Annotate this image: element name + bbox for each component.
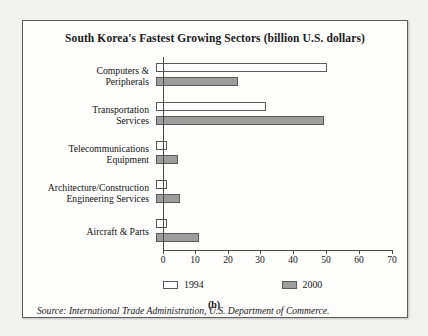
x-tick-label-70: 70 — [387, 255, 397, 265]
x-tick-mark-60 — [359, 250, 360, 254]
category-label-transportation: Transportation Services — [31, 104, 156, 126]
x-tick-label-50: 50 — [321, 255, 331, 265]
bars-holder-transportation — [156, 98, 394, 132]
category-label-telecommunications: Telecommunications Equipment — [31, 143, 156, 165]
plot-area: Computers & Peripherals Transportation S… — [31, 57, 401, 257]
x-tick-mark-40 — [293, 250, 294, 254]
bar-2000-computers — [156, 77, 238, 86]
x-tick-mark-70 — [392, 250, 393, 254]
x-tick-label-30: 30 — [255, 255, 265, 265]
legend-label-2000: 2000 — [303, 279, 323, 290]
category-label-line-1: Computers & — [31, 65, 149, 76]
y-axis-line — [163, 57, 164, 250]
x-tick-label-60: 60 — [354, 255, 364, 265]
bar-2000-telecommunications — [156, 155, 178, 164]
chart-legend: 1994 2000 — [163, 279, 363, 290]
bar-2000-architecture — [156, 194, 180, 203]
figure-caption: (b) — [0, 299, 428, 310]
category-label-aircraft: Aircraft & Parts — [31, 226, 156, 237]
x-tick-mark-20 — [228, 250, 229, 254]
x-tick-mark-30 — [260, 250, 261, 254]
legend-entry-1994: 1994 — [163, 279, 204, 290]
bars-holder-telecommunications — [156, 137, 394, 171]
category-label-computers: Computers & Peripherals — [31, 65, 156, 87]
legend-label-1994: 1994 — [184, 279, 204, 290]
bars-holder-architecture — [156, 176, 394, 210]
x-tick-label-0: 0 — [161, 255, 166, 265]
legend-swatch-1994 — [163, 281, 178, 289]
category-label-line-1: Architecture/Construction — [31, 182, 149, 193]
category-row-transportation: Transportation Services — [31, 98, 401, 132]
category-label-line-1: Telecommunications — [31, 143, 149, 154]
bars-holder-aircraft — [156, 215, 394, 249]
bar-1994-computers — [156, 63, 327, 72]
category-row-computers: Computers & Peripherals — [31, 59, 401, 93]
category-label-architecture: Architecture/Construction Engineering Se… — [31, 182, 156, 204]
category-label-line-2: Equipment — [31, 154, 149, 165]
bar-1994-transportation — [156, 102, 266, 111]
bars-holder-computers — [156, 59, 394, 93]
category-row-architecture: Architecture/Construction Engineering Se… — [31, 176, 401, 210]
x-tick-label-20: 20 — [223, 255, 233, 265]
legend-swatch-2000 — [282, 281, 297, 289]
x-tick-mark-0 — [163, 250, 164, 254]
bar-rows: Computers & Peripherals Transportation S… — [31, 57, 401, 250]
bar-2000-transportation — [156, 116, 324, 125]
category-label-line-2: Engineering Services — [31, 193, 149, 204]
bar-1994-architecture — [156, 180, 167, 189]
category-label-line-1: Transportation — [31, 104, 149, 115]
x-tick-mark-50 — [326, 250, 327, 254]
category-row-aircraft: Aircraft & Parts — [31, 215, 401, 249]
category-label-line-2: Aircraft & Parts — [31, 226, 149, 237]
bar-1994-telecommunications — [156, 141, 167, 150]
category-row-telecommunications: Telecommunications Equipment — [31, 137, 401, 171]
x-tick-label-10: 10 — [190, 255, 200, 265]
figure-frame: South Korea's Fastest Growing Sectors (b… — [22, 20, 408, 318]
x-tick-mark-10 — [195, 250, 196, 254]
bar-1994-aircraft — [156, 219, 167, 228]
chart-title: South Korea's Fastest Growing Sectors (b… — [23, 32, 407, 44]
legend-entry-2000: 2000 — [282, 279, 323, 290]
category-label-line-2: Services — [31, 115, 149, 126]
category-label-line-2: Peripherals — [31, 76, 149, 87]
x-tick-label-40: 40 — [288, 255, 298, 265]
